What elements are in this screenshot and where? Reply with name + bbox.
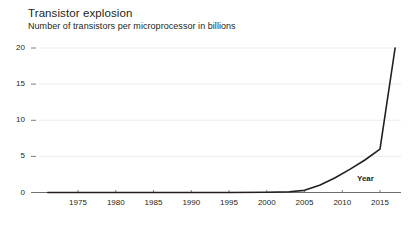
x-axis-title: Year bbox=[357, 175, 374, 183]
x-axis-tick-label: 1995 bbox=[209, 199, 249, 207]
x-axis-tick-label: 1975 bbox=[58, 199, 98, 207]
y-axis-tick-label: 10 bbox=[3, 116, 25, 124]
y-axis-tick-marks bbox=[31, 48, 36, 193]
x-axis-tick-label: 2010 bbox=[322, 199, 362, 207]
y-axis-tick-label: 0 bbox=[3, 189, 25, 197]
y-axis-tick-label: 5 bbox=[3, 152, 25, 160]
y-axis-tick-label: 20 bbox=[3, 44, 25, 52]
x-axis-tick-label: 1990 bbox=[171, 199, 211, 207]
x-axis-tick-label: 2015 bbox=[360, 199, 400, 207]
x-axis-tick-label: 1980 bbox=[96, 199, 136, 207]
x-axis-tick-label: 1985 bbox=[134, 199, 174, 207]
x-axis-tick-label: 2005 bbox=[285, 199, 325, 207]
plot-area bbox=[0, 0, 418, 226]
x-axis-tick-label: 2000 bbox=[247, 199, 287, 207]
gridlines bbox=[39, 48, 401, 156]
transistor-explosion-chart: Transistor explosion Number of transisto… bbox=[0, 0, 418, 226]
y-axis-tick-label: 15 bbox=[3, 80, 25, 88]
